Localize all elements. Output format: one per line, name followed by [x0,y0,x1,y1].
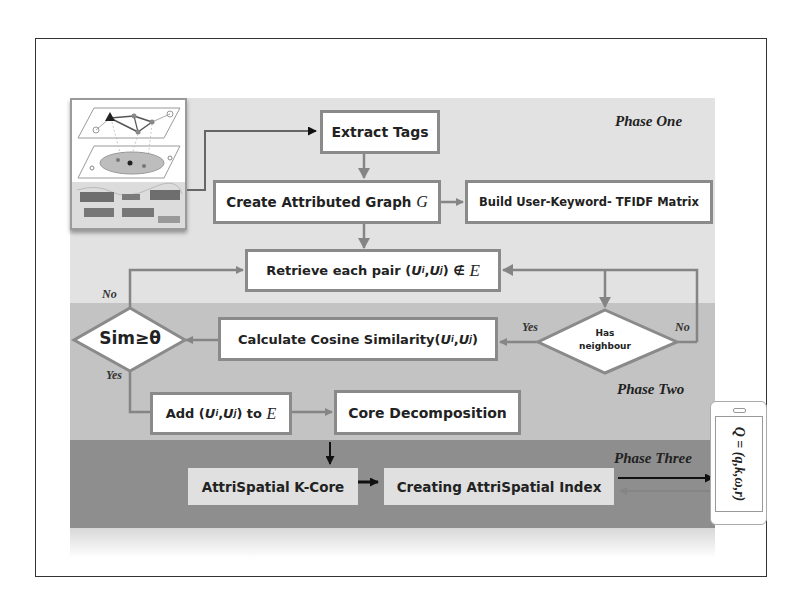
phone-screen: Q = (q,k,ω,r) [715,416,763,512]
edge-set-symbol: E [469,261,479,281]
uj-var: U [223,406,234,421]
creating-index-node: Creating AttriSpatial Index [384,468,614,505]
add-label-pre: Add ( [166,406,205,421]
sim-threshold-label: Sim≥θ [74,328,186,348]
add-label-post: ) to [236,406,266,421]
phase-one-label: Phase One [615,113,682,130]
create-attributed-graph-node: Create Attributed Graph G [213,180,441,224]
uj-var: U [459,332,470,347]
build-tfidf-matrix-node: Build User-Keyword- TFIDF Matrix [465,180,713,224]
query-phone: Q = (q,k,ω,r) [710,401,767,525]
phase-three-label: Phase Three [614,450,692,467]
cosine-label-pre: Calculate Cosine Similarity( [238,332,440,347]
core-decomposition-node: Core Decomposition [334,390,521,435]
retrieve-label-pre: Retrieve each pair ( [266,263,411,278]
build-matrix-label: Build User-Keyword- TFIDF Matrix [479,195,699,209]
sim-yes-label: Yes [106,368,122,383]
create-graph-label: Create Attributed Graph [226,194,416,210]
ui-var: U [411,263,422,278]
cosine-label-post: ) [472,332,478,347]
uj-var: U [429,263,440,278]
sim-no-label: No [102,287,117,302]
retrieve-pair-node: Retrieve each pair (Ui,Uj) ∉ E [245,249,501,292]
add-edge-node: Add (Ui,Uj) to E [150,392,292,435]
attrispatial-kcore-node: AttriSpatial K-Core [188,468,358,505]
ui-var: U [205,406,216,421]
flow-connectors [0,0,803,611]
has-neighbour-yes-label: Yes [522,320,538,335]
core-decomposition-label: Core Decomposition [348,405,507,421]
graph-symbol: G [416,193,428,211]
phone-speaker [733,408,746,413]
calculate-cosine-node: Calculate Cosine Similarity(Ui,Uj) [218,317,498,361]
query-label: Q = (q,k,ω,r) [731,427,747,501]
has-neighbour-no-label: No [675,320,690,335]
ui-var: U [440,332,451,347]
edge-set-symbol: E [267,405,277,423]
extract-tags-node: Extract Tags [320,110,440,154]
has-neighbour-label: Has neighbour [560,327,650,353]
phase-two-label: Phase Two [617,381,684,398]
has-neighbour-line2: neighbour [560,340,650,353]
extract-tags-label: Extract Tags [331,124,428,140]
kcore-label: AttriSpatial K-Core [202,479,345,495]
has-neighbour-line1: Has [560,327,650,340]
retrieve-label-post: ) ∉ [443,263,470,278]
creating-index-label: Creating AttriSpatial Index [397,479,602,495]
